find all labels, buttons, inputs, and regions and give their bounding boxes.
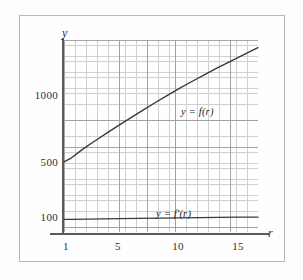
curve-f-of-r xyxy=(64,48,258,162)
curves-layer xyxy=(0,0,303,280)
semilog-graph-figure: y r y = f(r) y = f′(r) 1005001000 151015 xyxy=(0,0,303,280)
x-tick-5: 5 xyxy=(106,240,130,252)
y-tick-100: 100 xyxy=(24,211,58,223)
y-tick-500: 500 xyxy=(24,156,58,168)
y-tick-1000: 1000 xyxy=(24,89,58,101)
y-axis-label: y xyxy=(62,26,67,41)
x-axis-line xyxy=(50,233,269,235)
x-tick-1: 1 xyxy=(54,240,78,252)
curve-label-f-prime: y = f′(r) xyxy=(156,208,191,219)
curve-label-f: y = f(r) xyxy=(181,106,214,117)
x-tick-10: 10 xyxy=(166,240,190,252)
x-axis-label: r xyxy=(268,226,273,241)
x-tick-15: 15 xyxy=(226,240,250,252)
y-axis-line xyxy=(62,38,64,234)
